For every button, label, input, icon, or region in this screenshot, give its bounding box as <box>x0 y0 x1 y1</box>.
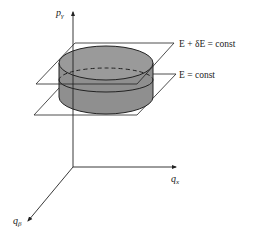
q-beta-axis <box>28 167 73 221</box>
q-beta-axis-label: qβ <box>13 215 22 228</box>
q-x-axis-label: qx <box>171 173 180 186</box>
p-gamma-axis-label: pγ <box>55 7 64 20</box>
upper-plane-label: E + δE = const <box>179 39 236 49</box>
phase-space-diagram: pγ qx qβ E + δE = const E = const <box>0 0 254 236</box>
lower-plane-label: E = const <box>179 70 215 80</box>
